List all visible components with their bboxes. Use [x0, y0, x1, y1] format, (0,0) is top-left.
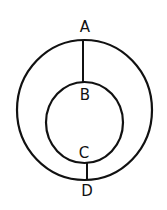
label-b: B	[80, 86, 90, 104]
label-d: D	[81, 182, 93, 200]
label-a: A	[80, 18, 91, 36]
concentric-circles-diagram: A B C D	[0, 0, 167, 210]
label-c: C	[79, 144, 89, 162]
